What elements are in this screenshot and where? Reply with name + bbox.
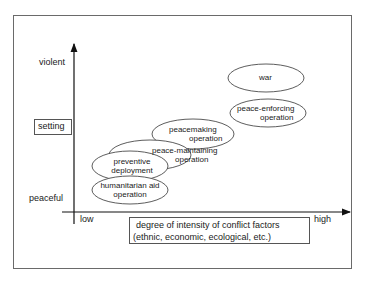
node-peace-maintaining: peace-maintaining operation bbox=[152, 146, 217, 164]
x-high-label: high bbox=[314, 214, 331, 224]
node-peace-enforcing: peace-enforcing operation bbox=[237, 104, 294, 122]
node-war: war bbox=[259, 73, 272, 82]
node-humanitarian: humanitarian aid operation bbox=[98, 181, 162, 199]
x-low-label: low bbox=[80, 214, 94, 224]
node-peacemaking: peacemaking operation bbox=[169, 125, 222, 143]
y-top-label: violent bbox=[39, 57, 65, 67]
y-axis-title: setting bbox=[34, 119, 72, 135]
x-axis-title-line2: (ethnic, economic, ecological, etc.) bbox=[133, 231, 306, 243]
y-bottom-label: peaceful bbox=[29, 193, 63, 203]
node-preventive: preventive deployment bbox=[110, 157, 154, 175]
x-axis-title: degree of intensity of conflict factors … bbox=[129, 217, 310, 244]
x-axis-title-line1: degree of intensity of conflict factors bbox=[133, 219, 306, 231]
